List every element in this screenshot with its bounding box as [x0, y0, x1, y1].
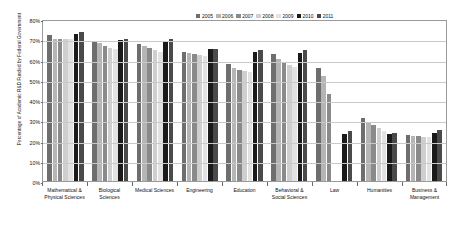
gridline	[43, 62, 446, 63]
gridline	[43, 41, 446, 42]
y-tick-mark	[41, 41, 44, 42]
bar	[321, 76, 326, 181]
bar	[237, 70, 242, 181]
bar-group	[356, 21, 401, 181]
x-tick-mark	[87, 182, 88, 186]
legend-swatch	[196, 14, 200, 18]
y-tick-label: 0%	[6, 180, 40, 186]
x-tick-cell	[132, 182, 177, 186]
legend-swatch	[236, 14, 240, 18]
x-tick-mark	[357, 182, 358, 186]
bar-group	[222, 21, 267, 181]
legend-entry: 2006	[216, 13, 233, 19]
x-tick-mark	[222, 182, 223, 186]
y-tick-mark	[41, 163, 44, 164]
legend-entry: 2009	[276, 13, 293, 19]
bar	[427, 137, 432, 181]
bar	[124, 39, 129, 181]
gridline	[43, 82, 446, 83]
bar-group	[267, 21, 312, 181]
bar-chart: Percentage of Academic R&D Funded by Fed…	[0, 0, 452, 234]
bar	[169, 39, 174, 181]
legend-label: 2010	[303, 13, 314, 19]
x-tick-mark	[42, 182, 43, 186]
legend-entry: 2008	[256, 13, 273, 19]
x-axis-category-label: Engineering	[177, 187, 222, 200]
y-tick-mark	[41, 122, 44, 123]
x-tick-mark	[312, 182, 313, 186]
bar	[208, 49, 213, 181]
gridline	[43, 102, 446, 103]
legend-label: 2008	[262, 13, 273, 19]
legend-swatch	[317, 14, 321, 18]
bar	[303, 50, 308, 181]
x-axis-category-label: Law	[312, 187, 357, 200]
y-axis-title: Percentage of Academic R&D Funded by Fed…	[17, 0, 23, 174]
bar	[92, 42, 97, 181]
legend-label: 2005	[202, 13, 213, 19]
x-axis-labels: Mathematical & Physical SciencesBiologic…	[42, 187, 447, 200]
x-tick-cell	[402, 182, 447, 186]
bar	[342, 134, 347, 181]
legend-label: 2007	[242, 13, 253, 19]
bar	[113, 49, 118, 181]
gridline	[43, 143, 446, 144]
bar	[292, 67, 297, 181]
x-tick-cell	[267, 182, 312, 186]
legend-swatch	[256, 14, 260, 18]
bar	[58, 39, 63, 181]
y-tick-mark	[41, 102, 44, 103]
y-tick-label: 40%	[6, 99, 40, 105]
legend-label: 2009	[282, 13, 293, 19]
bar	[392, 133, 397, 181]
x-axis-category-label: Business & Management	[402, 187, 447, 200]
bar	[242, 71, 247, 181]
plot-area: 80%70%60%50%40%30%20%10%0%	[42, 20, 447, 182]
y-tick-label: 60%	[6, 59, 40, 65]
bar	[137, 44, 142, 181]
bar	[68, 39, 73, 181]
bar	[316, 68, 321, 181]
legend-entry: 2010	[297, 13, 314, 19]
gridline	[43, 163, 446, 164]
x-tick-mark	[177, 182, 178, 186]
bar	[47, 35, 52, 181]
bar	[371, 125, 376, 181]
bar	[387, 134, 392, 181]
bar	[348, 131, 353, 181]
bar	[432, 133, 437, 181]
legend-entry: 2005	[196, 13, 213, 19]
chart-legend: 2005200620072008200920102011	[196, 13, 333, 19]
bar	[258, 50, 263, 181]
x-tick-cell	[222, 182, 267, 186]
bar	[437, 130, 442, 181]
bar	[327, 94, 332, 181]
bar	[147, 48, 152, 181]
x-tick-mark	[267, 182, 268, 186]
bar	[97, 43, 102, 181]
bar	[103, 46, 108, 181]
bar	[382, 131, 387, 181]
bar	[63, 39, 68, 181]
x-axis-category-label: Medical Sciences	[132, 187, 177, 200]
x-tick-cell	[87, 182, 132, 186]
x-axis-category-label: Behavioral & Social Sciences	[267, 187, 312, 200]
bar	[421, 137, 426, 181]
bar	[248, 72, 253, 181]
bar	[153, 50, 158, 181]
bars-layer	[43, 21, 446, 181]
bar	[74, 34, 79, 181]
legend-swatch	[297, 14, 301, 18]
x-tick-mark	[132, 182, 133, 186]
bar	[366, 122, 371, 181]
bar-group	[312, 21, 357, 181]
x-tick-cell	[42, 182, 87, 186]
y-tick-label: 70%	[6, 38, 40, 44]
x-tick-mark	[446, 182, 447, 186]
bar	[213, 49, 218, 181]
x-tick-cell	[177, 182, 222, 186]
y-tick-mark	[41, 21, 44, 22]
bar-group	[88, 21, 133, 181]
legend-swatch	[216, 14, 220, 18]
y-tick-label: 30%	[6, 119, 40, 125]
